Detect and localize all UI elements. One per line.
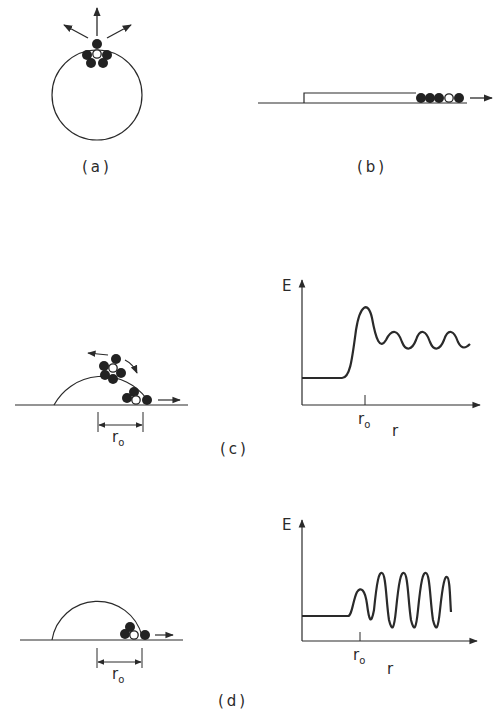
arrow-up-left-icon [64,25,88,38]
panel-d-drawing: ro (d) [20,601,248,710]
r0-dimension-d: ro [97,648,142,685]
energy-chart-d: E ro r [282,516,477,678]
arrow-left-icon [88,353,108,355]
ejection-arrows [64,8,131,38]
energy-chart-c: E ro r [282,277,480,440]
panel-label-b: (b) [357,158,387,176]
panel-label-a: (a) [82,158,112,176]
particle-row [416,93,464,103]
particle-cluster [82,39,112,68]
panel-c-drawing: ro (c) [15,353,249,458]
panel-label-d: (d) [218,692,248,710]
panel-b: (b) [258,93,492,176]
y-axis-label: E [282,516,291,534]
surface-step [304,93,416,103]
y-axis-label: E [282,277,291,295]
r0-dimension-c: ro [98,412,143,448]
arrow-up-right-icon [107,25,131,38]
r0-label: ro [112,665,124,685]
cluster-contact-line [122,387,152,405]
sphere [52,50,142,140]
panel-a: (a) [52,8,142,176]
energy-curve-d [302,573,451,628]
energy-curve-c [302,307,470,378]
r0-label: ro [112,428,124,448]
cluster-contact-line [120,622,150,640]
figure-canvas: (a) (b) [0,0,501,722]
arrow-down-arc-icon [125,360,137,373]
panel-label-c: (c) [220,440,249,458]
x-axis-label: r [387,660,394,678]
x-axis-label: r [392,422,399,440]
x-tick-r0: ro [358,410,370,430]
x-tick-r0: ro [353,646,365,666]
